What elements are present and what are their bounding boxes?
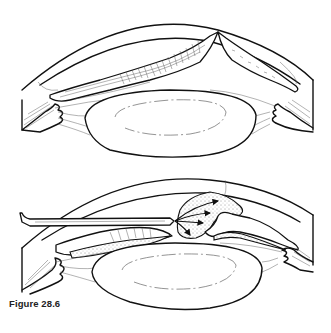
figure: Figure 28.6 — [0, 0, 331, 333]
iris-right-2 — [205, 212, 298, 250]
lens-bottom — [92, 243, 262, 310]
top-panel — [22, 24, 313, 157]
surgical-blade — [20, 213, 174, 226]
ciliary-right-2 — [282, 248, 313, 272]
ciliary-right — [272, 104, 313, 132]
eye-cross-section-illustrations — [0, 0, 331, 333]
ciliary-left — [22, 104, 63, 132]
lens-top — [85, 90, 256, 157]
bottom-panel — [20, 179, 313, 310]
figure-caption: Figure 28.6 — [9, 298, 60, 309]
iris-right — [218, 32, 298, 92]
